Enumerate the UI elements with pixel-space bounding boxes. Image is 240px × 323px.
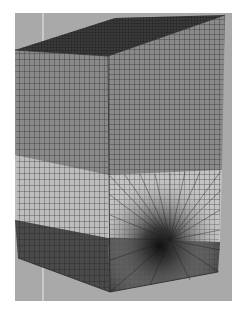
mesh-figure <box>0 0 240 323</box>
left-face <box>15 50 110 292</box>
right-face <box>108 15 225 292</box>
refined-mesh-region <box>110 171 221 292</box>
